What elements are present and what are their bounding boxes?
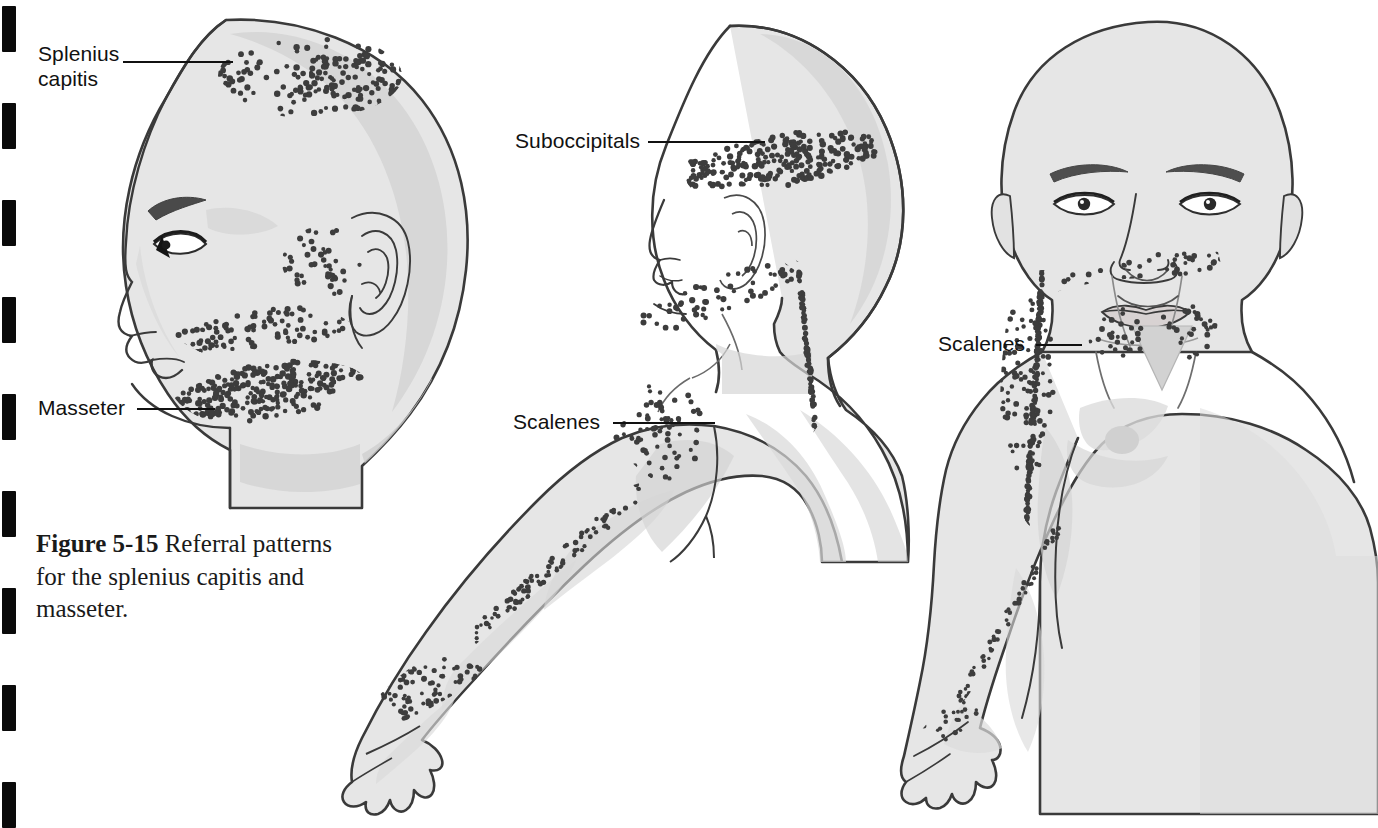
binding-mark-3 — [2, 200, 16, 246]
label-scalenes-right: Scalenes — [938, 332, 1025, 357]
dot-pattern-upper-trapezius — [641, 259, 795, 331]
binding-mark-2 — [2, 103, 16, 149]
leader-line-splenius-capitis — [123, 61, 233, 63]
leader-line-suboccipitals — [648, 141, 765, 143]
head-front — [1001, 22, 1292, 352]
binding-mark-4 — [2, 297, 16, 343]
binding-mark-6 — [2, 491, 16, 537]
sternal-notch — [1132, 326, 1192, 390]
label-splenius-capitis: Splenius capitis — [38, 42, 119, 92]
binding-mark-9 — [2, 782, 16, 828]
binding-mark-5 — [2, 394, 16, 440]
label-suboccipitals: Suboccipitals — [515, 129, 640, 154]
leader-line-masseter — [137, 408, 215, 410]
binding-marks-strip — [0, 0, 30, 817]
face-profile — [649, 200, 686, 314]
caption-number: Figure 5-15 — [36, 530, 158, 557]
leader-line-scalenes-middle — [613, 422, 715, 424]
anterior-body-svg — [900, 8, 1378, 814]
figure-caption: Figure 5-15 Referral patterns for the sp… — [36, 528, 336, 626]
binding-mark-1 — [2, 6, 16, 52]
binding-mark-7 — [2, 588, 16, 634]
label-scalenes-middle: Scalenes — [513, 410, 600, 435]
label-masseter: Masseter — [38, 396, 125, 421]
leader-line-scalenes-right — [1036, 344, 1082, 346]
binding-mark-8 — [2, 685, 16, 731]
figure-anterior-body — [900, 8, 1378, 814]
